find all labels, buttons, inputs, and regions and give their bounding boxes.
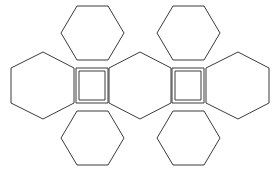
polyhedron-net-figure: Polyhedron net diagram Unfolded net made… <box>0 0 279 171</box>
square-right <box>172 68 204 103</box>
square-left <box>76 68 108 103</box>
